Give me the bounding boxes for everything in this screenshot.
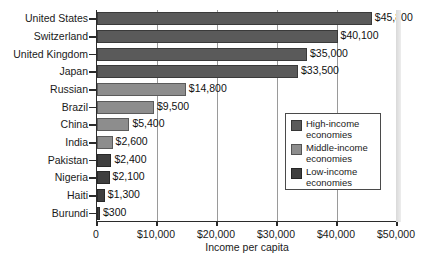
bar-value-label: $5,400 (132, 117, 164, 130)
bar-value-label: $300 (103, 206, 126, 219)
category-label: United States (0, 12, 88, 25)
value-tick (276, 222, 278, 226)
value-tick-label: $10,000 (137, 228, 175, 240)
legend-label-line1: Low-income (306, 167, 357, 178)
value-tick-label: $50,000 (377, 228, 415, 240)
legend-label: High-incomeeconomies (306, 119, 359, 140)
bar-value-label: $45,800 (375, 11, 413, 24)
category-tick (89, 107, 96, 109)
clipped-chart-title (0, 0, 423, 2)
bar-row: $14,800 (97, 83, 399, 96)
category-tick (89, 160, 96, 162)
category-tick (89, 142, 96, 144)
bar-row: $45,800 (97, 12, 399, 25)
legend-label-line2: economies (306, 178, 357, 189)
income-per-capita-bar-chart: $45,800$40,100$35,000$33,500$14,800$9,50… (0, 0, 423, 260)
bar-row: $40,100 (97, 30, 399, 43)
bar-value-label: $40,100 (341, 29, 379, 42)
category-label: Switzerland (0, 30, 88, 43)
legend-swatch-icon (291, 120, 302, 131)
bar-value-label: $9,500 (157, 100, 189, 113)
legend-label: Low-incomeeconomies (306, 167, 357, 188)
bar-value-label: $2,600 (116, 135, 148, 148)
bar[interactable] (97, 136, 113, 149)
bar[interactable] (97, 118, 129, 131)
category-tick (89, 213, 96, 215)
bar-row: $33,500 (97, 65, 399, 78)
legend-label-line2: economies (306, 130, 359, 141)
legend: High-incomeeconomiesMiddle-incomeeconomi… (285, 113, 381, 190)
bar-value-label: $35,000 (310, 47, 348, 60)
legend-label-line1: High-income (306, 119, 359, 130)
category-axis-labels: United StatesSwitzerlandUnited KingdomJa… (0, 10, 88, 222)
value-tick (96, 222, 98, 226)
bar[interactable] (97, 83, 186, 96)
category-tick (89, 18, 96, 20)
bar-value-label: $1,300 (108, 188, 140, 201)
bar-value-label: $2,100 (113, 170, 145, 183)
bar[interactable] (97, 171, 110, 184)
legend-label-line1: Middle-income (306, 143, 368, 154)
category-label: Burundi (0, 207, 88, 220)
category-label: Russian (0, 83, 88, 96)
category-tick (89, 89, 96, 91)
category-label: Nigeria (0, 171, 88, 184)
category-tick (89, 124, 96, 126)
bar[interactable] (97, 101, 154, 114)
bar-value-label: $14,800 (189, 82, 227, 95)
category-label: China (0, 118, 88, 131)
category-tick (89, 71, 96, 73)
value-tick-label: $40,000 (317, 228, 355, 240)
category-tick (89, 54, 96, 56)
bar-row: $1,300 (97, 189, 399, 202)
bar-row: $9,500 (97, 101, 399, 114)
bar[interactable] (97, 65, 298, 78)
legend-item[interactable]: Middle-incomeeconomies (291, 143, 376, 164)
legend-label: Middle-incomeeconomies (306, 143, 368, 164)
category-tick (89, 195, 96, 197)
category-tick (89, 36, 96, 38)
value-tick (336, 222, 338, 226)
category-label: United Kingdom (0, 48, 88, 61)
category-label: Brazil (0, 101, 88, 114)
value-tick (396, 222, 398, 226)
category-label: Pakistan (0, 154, 88, 167)
x-axis-title: Income per capita (96, 241, 398, 253)
value-tick-label: $20,000 (197, 228, 235, 240)
legend-swatch-icon (291, 168, 302, 179)
value-tick-label: $30,000 (257, 228, 295, 240)
legend-item[interactable]: High-incomeeconomies (291, 119, 376, 140)
plot-right-edge-shadow (396, 10, 401, 222)
value-tick-label: 0 (93, 228, 99, 240)
bar[interactable] (97, 154, 111, 167)
bar-row: $35,000 (97, 48, 399, 61)
bar[interactable] (97, 12, 372, 25)
value-tick (216, 222, 218, 226)
category-tick (89, 177, 96, 179)
legend-item[interactable]: Low-incomeeconomies (291, 167, 376, 188)
bar[interactable] (97, 189, 105, 202)
legend-label-line2: economies (306, 154, 368, 165)
category-label: India (0, 136, 88, 149)
bar-value-label: $2,400 (114, 153, 146, 166)
category-label: Haiti (0, 189, 88, 202)
bar[interactable] (97, 30, 338, 43)
bar-row: $300 (97, 207, 399, 220)
category-label: Japan (0, 65, 88, 78)
legend-swatch-icon (291, 144, 302, 155)
bar-value-label: $33,500 (301, 64, 339, 77)
bar[interactable] (97, 48, 307, 61)
bar[interactable] (97, 207, 100, 220)
value-tick (156, 222, 158, 226)
